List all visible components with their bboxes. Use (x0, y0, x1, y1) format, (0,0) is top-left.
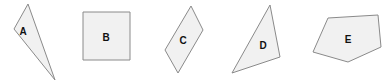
shape-b: B (83, 12, 130, 60)
shape-c-label: C (179, 35, 186, 46)
shape-d: D (232, 5, 280, 73)
shapes-diagram: A B C D E (0, 0, 391, 82)
triangle-d (232, 5, 280, 73)
shape-d-label: D (259, 40, 266, 51)
shape-c: C (165, 6, 203, 73)
shape-a-label: A (19, 26, 26, 37)
triangle-a (14, 4, 55, 80)
shape-e: E (313, 15, 381, 62)
shape-e-label: E (345, 34, 352, 45)
shape-a: A (14, 4, 55, 80)
shape-b-label: B (102, 32, 109, 43)
